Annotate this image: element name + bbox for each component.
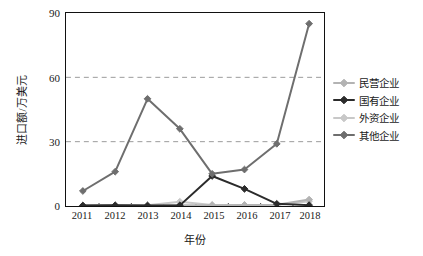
legend-label: 外资企业 [355,110,399,125]
legend-label: 其他企业 [355,128,399,143]
data-point [209,202,216,206]
y-tick-label-60: 60 [34,73,60,84]
y-axis-tick-labels: 90 60 30 0 [32,0,60,256]
plot-area [65,12,325,207]
chart-legend: 民营企业国有企业外资企业其他企业 [333,74,421,144]
data-point [241,202,248,206]
y-tick-label-90: 90 [34,8,60,19]
data-point [273,200,280,206]
y-tick-label-0: 0 [34,201,60,212]
data-point [112,202,119,206]
legend-marker-icon [333,128,355,142]
series-国有企业 [79,173,312,206]
legend-marker-icon [333,93,355,107]
x-tick-label-2018: 2018 [290,210,330,221]
legend-marker-icon [333,76,355,90]
data-point [306,20,313,27]
legend-item-1[interactable]: 民营企业 [333,74,421,92]
legend-marker-icon [333,111,355,125]
series-layer [79,20,312,206]
y-tick-label-30: 30 [34,137,60,148]
legend-item-3[interactable]: 外资企业 [333,109,421,127]
legend-label: 国有企业 [355,93,399,108]
line-chart-figure: 进口额/万美元 90 60 30 0 2011 2012 2013 2014 2… [0,0,423,256]
data-point [79,202,86,206]
y-axis-title: 进口额/万美元 [13,50,29,170]
x-axis-title: 年份 [65,231,325,247]
legend-item-4[interactable]: 其他企业 [333,127,421,145]
series-其他企业 [79,20,312,194]
data-point [144,202,151,206]
plot-canvas [66,13,324,206]
data-point [241,185,248,192]
x-axis-tick-labels: 2011 2012 2013 2014 2015 2016 2017 2018 [65,210,325,228]
legend-label: 民营企业 [355,75,399,90]
legend-item-2[interactable]: 国有企业 [333,92,421,110]
